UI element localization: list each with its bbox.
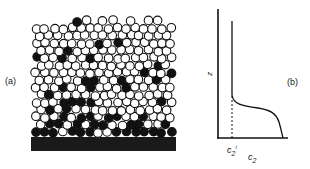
filled-particle: [77, 114, 86, 123]
open-particle: [112, 84, 121, 93]
tick-label-sub: 2: [232, 150, 236, 157]
open-particle: [98, 107, 107, 116]
open-particle: [145, 91, 154, 100]
open-particle: [73, 77, 82, 86]
open-particle: [107, 62, 116, 71]
concentration-curve: [232, 21, 283, 138]
open-particle: [134, 47, 143, 56]
open-particle: [136, 107, 145, 116]
filled-particle: [157, 129, 166, 138]
open-particle: [153, 16, 162, 25]
c2-axis-label: c2: [248, 152, 256, 166]
open-particle: [77, 40, 86, 49]
tick-label-sup: i: [235, 144, 236, 150]
open-particle: [51, 24, 60, 33]
open-particle: [67, 83, 76, 92]
filled-particle: [49, 129, 58, 138]
open-particle: [82, 16, 91, 25]
open-particle: [154, 47, 163, 56]
filled-particle: [99, 121, 108, 130]
open-particle: [98, 61, 107, 70]
open-particle: [144, 16, 153, 25]
open-particle: [126, 17, 135, 26]
open-particle: [86, 40, 95, 49]
open-particle: [139, 25, 148, 34]
filled-particle: [90, 120, 99, 129]
substrate: [31, 137, 176, 151]
concentration-profile-plot: [217, 9, 288, 139]
open-particle: [55, 62, 64, 71]
open-particle: [109, 16, 118, 25]
open-particle: [145, 106, 154, 115]
filled-particle: [76, 128, 85, 137]
open-particle: [59, 25, 68, 34]
open-particle: [134, 92, 143, 101]
filled-particle: [168, 128, 177, 137]
open-particle: [158, 39, 167, 48]
open-particle: [50, 39, 59, 48]
open-particle: [122, 25, 131, 34]
open-particle: [98, 17, 107, 26]
open-particle: [134, 75, 143, 84]
filled-particle: [167, 69, 176, 78]
open-particle: [103, 39, 112, 48]
open-particle: [86, 69, 95, 78]
panel-a-label: (a): [5, 76, 16, 86]
panel-b-label: (b): [287, 77, 298, 87]
open-particle: [40, 25, 49, 34]
open-particle: [166, 40, 175, 49]
open-particle: [55, 47, 64, 56]
open-particle: [104, 25, 113, 34]
open-particle: [135, 62, 144, 71]
particle-packing: [31, 16, 176, 138]
open-particle: [35, 76, 44, 85]
bulk-concentration-tick-label: c2i: [227, 142, 237, 159]
open-particle: [59, 39, 68, 48]
figure: (a) (b) z c2i c2: [0, 0, 310, 169]
open-particle: [144, 120, 153, 129]
axis-label-sub: 2: [253, 157, 257, 164]
open-particle: [67, 113, 76, 122]
open-particle: [167, 24, 176, 33]
filled-particle: [118, 76, 127, 85]
open-particle: [158, 25, 167, 34]
open-particle: [108, 107, 117, 116]
z-axis-label: z: [205, 72, 215, 76]
open-particle: [91, 92, 100, 101]
open-particle: [121, 54, 130, 63]
filled-particle: [32, 128, 41, 137]
open-particle: [104, 54, 113, 63]
filled-particle: [73, 18, 82, 27]
open-particle: [166, 83, 175, 92]
open-particle: [41, 99, 50, 108]
open-particle: [117, 107, 126, 116]
open-particle: [148, 25, 157, 34]
open-particle: [162, 106, 171, 115]
figure-svg: [0, 0, 310, 169]
open-particle: [118, 121, 127, 130]
open-particle: [150, 40, 159, 49]
open-particle: [94, 129, 103, 138]
open-particle: [41, 114, 50, 123]
open-particle: [32, 99, 41, 108]
